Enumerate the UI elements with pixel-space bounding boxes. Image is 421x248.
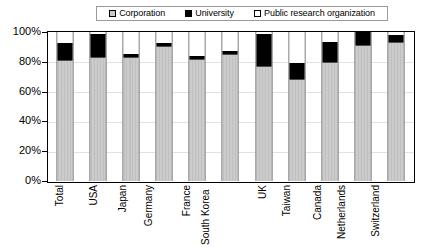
bar-group [214, 32, 247, 181]
stacked-bar-chart: Corporation University Public research o… [0, 0, 421, 248]
bar-group [148, 32, 181, 181]
bar-segment-university [323, 42, 338, 62]
legend-item-corporation: Corporation [109, 9, 165, 18]
bar-segment-public-research-organization [223, 32, 238, 51]
bar-segment-corporation [57, 60, 72, 181]
x-axis-tick-label: Netherlands [336, 185, 347, 239]
stacked-bar[interactable] [156, 32, 173, 181]
x-axis: TotalUSAJapanGermanyFranceSouth KoreaUKT… [48, 183, 413, 247]
bar-segment-public-research-organization [57, 32, 72, 43]
x-axis-tick: Total [48, 183, 81, 247]
x-axis-tick-label: UK [257, 185, 268, 199]
stacked-bar[interactable] [189, 32, 206, 181]
bar-group [347, 32, 380, 181]
bar-segment-public-research-organization [157, 32, 172, 43]
bar-segment-corporation [323, 62, 338, 181]
bar-segment-corporation [123, 57, 138, 181]
legend-item-university: University [185, 9, 234, 18]
x-axis-tick: South Korea [214, 183, 247, 247]
bar-segment-university [289, 63, 304, 79]
bar-segment-public-research-organization [190, 32, 205, 56]
bar-segment-corporation [256, 66, 271, 181]
x-axis-tick-label: Germany [144, 185, 155, 226]
y-axis: 100%80%60%40%20%0% [0, 24, 46, 190]
y-axis-tick-label: 100% [13, 26, 41, 37]
bar-group [114, 32, 147, 181]
x-axis-tick: UK [247, 183, 280, 247]
bar-group [48, 32, 81, 181]
bar-group [181, 32, 214, 181]
bar-segment-university [90, 34, 105, 58]
bar-segment-corporation [356, 45, 371, 181]
x-axis-tick-label: USA [87, 185, 98, 206]
x-axis-tick-label: South Korea [200, 185, 211, 245]
x-axis-tick: Taiwan [280, 183, 313, 247]
y-axis-tick-label: 60% [19, 86, 41, 97]
legend-label-corporation: Corporation [119, 9, 165, 18]
legend-swatch-corporation-icon [109, 10, 116, 17]
bar-segment-university [356, 32, 371, 45]
bar-segment-university [256, 34, 271, 66]
stacked-bar[interactable] [322, 32, 339, 181]
bar-segment-corporation [389, 42, 404, 181]
legend-item-public-research-organization: Public research organization [254, 9, 375, 18]
x-axis-tick: Switzerland [380, 183, 413, 247]
bar-segment-university [389, 35, 404, 42]
y-axis-tick-label: 20% [19, 145, 41, 156]
bar-group [81, 32, 114, 181]
x-axis-tick-label: Taiwan [281, 185, 292, 216]
x-axis-tick-label: Canada [313, 185, 324, 220]
y-axis-tick-label: 80% [19, 56, 41, 67]
legend-label-university: University [195, 9, 234, 18]
bar-group [313, 32, 346, 181]
x-axis-tick-label: Japan [117, 185, 128, 212]
x-axis-tick: USA [81, 183, 114, 247]
legend-swatch-public-research-organization-icon [254, 10, 261, 17]
bars-layer [48, 32, 413, 181]
bar-segment-corporation [190, 59, 205, 181]
stacked-bar[interactable] [122, 32, 139, 181]
bar-segment-public-research-organization [323, 32, 338, 42]
stacked-bar[interactable] [288, 32, 305, 181]
y-axis-tick-label: 40% [19, 115, 41, 126]
bar-group [247, 32, 280, 181]
bar-segment-corporation [223, 54, 238, 181]
legend-swatch-university-icon [185, 10, 192, 17]
bar-segment-public-research-organization [123, 32, 138, 54]
bar-segment-corporation [157, 46, 172, 181]
x-axis-tick-label: France [182, 185, 193, 216]
x-axis-tick-label: Switzerland [371, 185, 382, 237]
bar-segment-public-research-organization [289, 32, 304, 63]
x-axis-tick-label: Total [54, 185, 65, 206]
bar-group [280, 32, 313, 181]
stacked-bar[interactable] [355, 32, 372, 181]
stacked-bar[interactable] [89, 32, 106, 181]
stacked-bar[interactable] [255, 32, 272, 181]
stacked-bar[interactable] [56, 32, 73, 181]
bar-segment-corporation [90, 57, 105, 181]
stacked-bar[interactable] [222, 32, 239, 181]
bar-segment-university [57, 43, 72, 60]
bar-segment-corporation [289, 79, 304, 181]
chart-legend: Corporation University Public research o… [96, 6, 388, 21]
x-axis-tick: Germany [148, 183, 181, 247]
stacked-bar[interactable] [388, 32, 405, 181]
legend-label-public-research-organization: Public research organization [264, 9, 375, 18]
y-axis-tick-label: 0% [25, 175, 41, 186]
bar-group [380, 32, 413, 181]
